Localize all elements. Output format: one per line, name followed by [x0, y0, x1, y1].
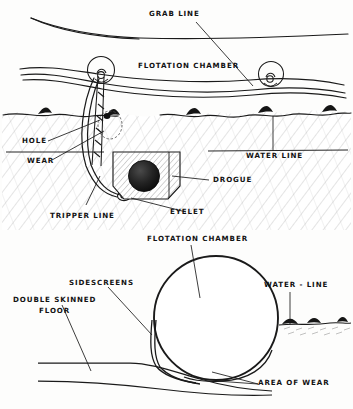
- label-flotation-chamber-lower: FLOTATION CHAMBER: [147, 235, 248, 243]
- flotation-chamber-circle: [154, 256, 278, 380]
- hole-mark: [104, 113, 111, 119]
- grab-line-rope: [31, 18, 348, 39]
- label-area-of-wear: AREA OF WEAR: [258, 379, 330, 387]
- flotation-chamber-upper: [20, 68, 346, 98]
- label-tripper-line: TRIPPER LINE: [50, 212, 115, 220]
- label-grab-line: GRAB LINE: [149, 10, 200, 18]
- label-water-line-lower: WATER - LINE: [264, 281, 328, 289]
- label-sidescreens: SIDESCREENS: [69, 279, 134, 287]
- drogue-mouth-ball: [129, 161, 160, 192]
- label-double-skinned-floor-line1: DOUBLE SKINNED: [13, 296, 96, 304]
- label-drogue: DROGUE: [213, 176, 252, 184]
- label-hole: HOLE: [22, 137, 47, 145]
- label-double-skinned-floor-line2: FLOOR: [39, 307, 70, 315]
- label-water-line-upper: WATER LINE: [246, 152, 303, 160]
- label-wear: WEAR: [27, 157, 54, 165]
- water-hatch-lower: [284, 327, 350, 335]
- diagram-canvas: GRAB LINE FLOTATION CHAMBER HOLE WEAR TR…: [0, 0, 353, 409]
- label-flotation-chamber-upper: FLOTATION CHAMBER: [138, 62, 239, 70]
- label-eyelet: EYELET: [170, 208, 204, 216]
- grommet-patch-right: [259, 62, 284, 87]
- grommet-patch-left: [88, 57, 115, 84]
